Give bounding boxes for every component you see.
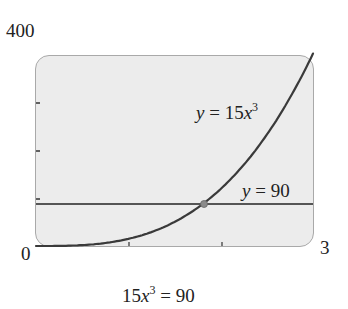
equation-caption: 15x3 = 90	[122, 284, 195, 305]
x-axis-max-label: 3	[320, 238, 330, 257]
x-axis-min-label: 0	[21, 244, 31, 263]
chart-lines	[0, 0, 348, 309]
curve-15x3	[36, 54, 313, 246]
hline-label: y = 90	[242, 181, 290, 200]
intersection-point	[201, 201, 208, 208]
curve-label: y = 15x3	[196, 101, 258, 122]
